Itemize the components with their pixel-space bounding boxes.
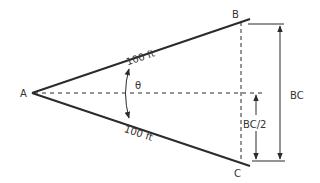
side-ab-length-label: 100 ft [125,48,157,68]
angle-theta-label: θ [135,80,141,91]
bc-dimension-label: BC [290,90,304,101]
triangle-diagram: A B C 100 ft 100 ft θ BC BC/2 [0,0,320,183]
theta-arc-arrow [126,69,130,118]
half-bc-dimension-label: BC/2 [243,119,266,130]
point-c-label: C [234,168,241,179]
point-b-label: B [232,9,239,20]
side-ac-length-label: 100 ft [123,123,155,143]
point-a-label: A [20,88,27,99]
